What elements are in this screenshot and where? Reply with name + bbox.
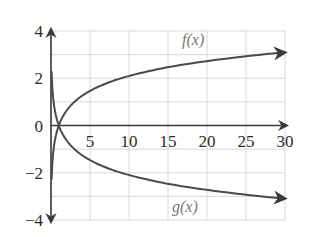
y-tick-label: −2 [25, 164, 43, 183]
x-tick-label: 25 [238, 132, 255, 151]
x-tick-label: 5 [86, 132, 95, 151]
y-tick-label: 4 [35, 22, 44, 41]
x-tick-label: 10 [121, 132, 138, 151]
g-series-label: g(x) [172, 198, 198, 216]
x-tick-label: 30 [277, 132, 294, 151]
chart: 51015202530420−2−4 f(x) g(x) [0, 0, 311, 237]
x-tick-label: 15 [160, 132, 177, 151]
y-tick-label: 0 [35, 117, 44, 136]
axes [51, 29, 287, 222]
y-tick-label: −4 [25, 211, 44, 230]
y-tick-label: 2 [35, 69, 44, 88]
x-tick-label: 20 [199, 132, 216, 151]
f-series-label: f(x) [182, 31, 204, 49]
